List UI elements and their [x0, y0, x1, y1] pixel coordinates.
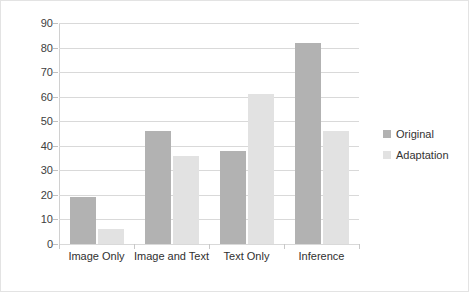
y-axis-tick-label: 0 [9, 238, 53, 250]
legend-item-label: Adaptation [396, 149, 449, 161]
y-axis-tick-mark [53, 97, 58, 98]
legend-swatch-icon [383, 151, 391, 159]
legend-item-adaptation[interactable]: Adaptation [383, 144, 465, 165]
y-axis-tick-mark [53, 170, 58, 171]
bar-original-inference [295, 43, 321, 244]
y-axis-tick-label: 50 [9, 115, 53, 127]
plot-area [59, 23, 359, 244]
x-axis-tick-mark [59, 244, 60, 249]
y-axis-tick-label: 40 [9, 140, 53, 152]
x-axis-category-label: Image and Text [134, 250, 209, 262]
y-axis-tick-label: 80 [9, 42, 53, 54]
legend-item-original[interactable]: Original [383, 123, 465, 144]
x-axis-tick-mark [284, 244, 285, 249]
legend-swatch-icon [383, 130, 391, 138]
legend-item-label: Original [396, 128, 434, 140]
bar-group [59, 23, 359, 244]
y-axis-tick-label: 70 [9, 66, 53, 78]
y-axis-tick-mark [53, 48, 58, 49]
x-axis-category-label: Image Only [68, 250, 124, 262]
x-axis-category-label: Inference [299, 250, 345, 262]
x-axis-tick-mark [359, 244, 360, 249]
y-axis: 0102030405060708090 [1, 23, 53, 244]
y-axis-tick-label: 90 [9, 17, 53, 29]
y-axis-tick-mark [53, 244, 58, 245]
x-axis-labels: Image OnlyImage and TextText OnlyInferen… [59, 250, 359, 270]
x-axis-tick-mark [134, 244, 135, 249]
y-axis-tick-mark [53, 72, 58, 73]
y-axis-tick-label: 30 [9, 164, 53, 176]
x-axis-tick-mark [209, 244, 210, 249]
y-axis-tick-label: 20 [9, 189, 53, 201]
chart-legend: OriginalAdaptation [383, 123, 465, 165]
y-axis-tick-label: 10 [9, 213, 53, 225]
y-axis-tick-label: 60 [9, 91, 53, 103]
y-axis-tick-mark [53, 219, 58, 220]
y-axis-tick-mark [53, 146, 58, 147]
bar-adaptation-inference [323, 131, 349, 244]
bar-chart-figure: 0102030405060708090 Image OnlyImage and … [0, 0, 469, 292]
y-axis-tick-mark [53, 195, 58, 196]
y-axis-tick-mark [53, 121, 58, 122]
x-axis-category-label: Text Only [224, 250, 270, 262]
y-axis-tick-mark [53, 23, 58, 24]
